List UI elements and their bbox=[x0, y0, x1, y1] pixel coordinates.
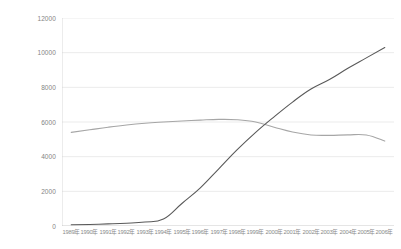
line-chart: 120001000080006000400020000 1989年1990年19… bbox=[0, 0, 401, 249]
x-axis-tick-label: 2005年 bbox=[357, 228, 375, 240]
series-line-series-1 bbox=[71, 119, 385, 141]
x-axis-tick-label: 2001年 bbox=[284, 228, 302, 240]
x-axis-tick-label: 1996年 bbox=[191, 228, 209, 240]
x-axis-tick-label: 1990年 bbox=[81, 228, 99, 240]
series-line-series-2 bbox=[71, 47, 385, 224]
y-axis-tick-label: 4000 bbox=[4, 153, 56, 160]
x-axis-tick-label: 1992年 bbox=[118, 228, 136, 240]
plot-area bbox=[62, 18, 394, 226]
x-axis-tick-label: 1997年 bbox=[210, 228, 228, 240]
y-axis-tick-label: 8000 bbox=[4, 84, 56, 91]
y-axis-tick-label: 12000 bbox=[4, 15, 56, 22]
gridlines bbox=[62, 18, 394, 191]
y-axis-tick-label: 6000 bbox=[4, 119, 56, 126]
x-axis-tick-label: 2004年 bbox=[339, 228, 357, 240]
x-axis-tick-label: 2002年 bbox=[302, 228, 320, 240]
y-axis-tick-label: 10000 bbox=[4, 49, 56, 56]
x-axis: 1989年1990年1991年1992年1993年1994年1995年1996年… bbox=[62, 228, 394, 241]
clipped-header-strip bbox=[0, 0, 401, 9]
x-axis-tick-label: 2003年 bbox=[320, 228, 338, 240]
y-axis: 120001000080006000400020000 bbox=[0, 0, 56, 249]
series-group bbox=[71, 47, 385, 224]
x-axis-tick-label: 1998年 bbox=[228, 228, 246, 240]
x-axis-tick-label: 1991年 bbox=[99, 228, 117, 240]
x-axis-tick-label: 2006年 bbox=[376, 228, 394, 240]
x-axis-tick-label: 1994年 bbox=[155, 228, 173, 240]
y-axis-tick-label: 0 bbox=[4, 223, 56, 230]
x-axis-tick-label: 1995年 bbox=[173, 228, 191, 240]
plot-svg bbox=[62, 18, 394, 226]
y-axis-tick-label: 2000 bbox=[4, 188, 56, 195]
x-axis-tick-label: 1999年 bbox=[247, 228, 265, 240]
x-axis-tick-label: 1989年 bbox=[62, 228, 80, 240]
x-axis-tick-label: 2000年 bbox=[265, 228, 283, 240]
x-axis-tick-label: 1993年 bbox=[136, 228, 154, 240]
